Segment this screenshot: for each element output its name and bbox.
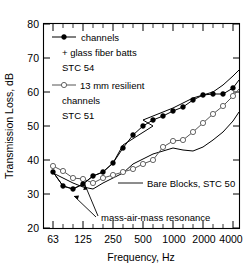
- y-tick-label: 40: [27, 154, 39, 166]
- x-tick-label: 4000: [219, 233, 243, 245]
- x-tick-label: 1000: [162, 233, 186, 245]
- legend-label-line1: 13 mm resilient: [80, 80, 145, 91]
- legend-label-line3: STC 54: [62, 62, 94, 73]
- y-tick-label: 60: [27, 86, 39, 98]
- series-resilient-channels-markers: [50, 93, 235, 185]
- x-tick-label: 63: [47, 233, 59, 245]
- y-tick-label: 20: [27, 222, 39, 234]
- y-axis-tick-labels: 20 30 40 50 60 70 80: [27, 18, 39, 234]
- annotation-bare-blocks: Bare Blocks, STC 50: [118, 178, 235, 189]
- legend-marker-open-circle: [61, 82, 66, 87]
- y-tick-label: 50: [27, 120, 39, 132]
- legend-entry-glass-fiber-batts[interactable]: channels + glass fiber batts STC 54: [52, 32, 137, 74]
- legend-label-line2: + glass fiber batts: [62, 47, 137, 58]
- x-axis-tick-labels: 63 125 250 500 1000 2000 4000: [47, 233, 243, 245]
- y-axis-title: Transmission Loss, dB: [3, 73, 15, 179]
- x-axis-title: Frequency, Hz: [107, 251, 175, 263]
- x-tick-label: 2000: [192, 233, 216, 245]
- annotation-mass-air-mass-label: mass-air-mass resonance: [101, 212, 210, 223]
- legend-label-line2: channels: [62, 95, 100, 106]
- annotation-mass-air-mass: mass-air-mass resonance: [74, 185, 210, 223]
- x-tick-label: 250: [104, 233, 122, 245]
- annotation-bare-blocks-label: Bare Blocks, STC 50: [147, 178, 235, 189]
- y-tick-label: 70: [27, 52, 39, 64]
- legend-marker-filled-circle: [62, 35, 67, 40]
- x-tick-label: 500: [134, 233, 152, 245]
- annotation-leader-line-upper: [85, 185, 98, 216]
- y-tick-label: 80: [27, 18, 39, 30]
- annotation-leader-line-lower: [74, 196, 96, 217]
- legend-label-line3: STC 51: [62, 110, 94, 121]
- y-tick-label: 30: [27, 188, 39, 200]
- transmission-loss-chart: 20 30 40 50 60 70 80 Transmission Loss, …: [0, 0, 252, 271]
- x-tick-label: 125: [74, 233, 92, 245]
- legend-entry-resilient-channels[interactable]: 13 mm resilient channels STC 51: [52, 80, 145, 122]
- chart-figure: 20 30 40 50 60 70 80 Transmission Loss, …: [0, 0, 252, 271]
- legend-label-line1: channels: [81, 32, 119, 43]
